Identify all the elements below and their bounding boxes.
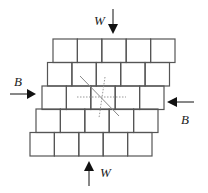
brick-cell <box>36 109 60 133</box>
brick-cell <box>60 109 84 133</box>
brick-cell <box>126 39 150 63</box>
brick-cell <box>134 109 158 133</box>
brick-cell <box>102 39 126 63</box>
brick-cell <box>48 63 72 87</box>
brick-cell <box>54 133 78 157</box>
brick-cell <box>96 63 120 87</box>
arrow-left-icon <box>167 97 177 107</box>
top-load-label: W <box>94 13 106 28</box>
bottom-load-arrow <box>84 161 94 186</box>
brick-cell <box>103 133 127 157</box>
brick-cell <box>121 63 145 87</box>
brick-cell <box>79 133 103 157</box>
brick-cell <box>109 109 133 133</box>
brick-cell <box>66 86 90 110</box>
brick-cell <box>145 63 169 87</box>
right-load-label: B <box>181 112 189 127</box>
brick-cell <box>30 133 54 157</box>
arrow-down-icon <box>108 24 118 34</box>
top-load-arrow <box>108 9 118 34</box>
brick-cell <box>53 39 77 63</box>
arrow-up-icon <box>84 161 94 171</box>
brick-cell <box>151 39 175 63</box>
bottom-load-label: W <box>100 165 112 180</box>
brick-cell <box>128 133 152 157</box>
brick-cell <box>42 86 66 110</box>
brick-cell <box>72 63 96 87</box>
brick-cell <box>85 109 109 133</box>
right-load-arrow <box>167 97 194 107</box>
left-load-label: B <box>14 74 22 89</box>
brick-cell <box>77 39 101 63</box>
left-load-arrow <box>10 89 36 99</box>
arrow-right-icon <box>27 89 36 99</box>
shear-wall-diagram: W W B B <box>0 0 208 193</box>
brick-cell <box>115 86 139 110</box>
brick-cell <box>140 86 164 110</box>
